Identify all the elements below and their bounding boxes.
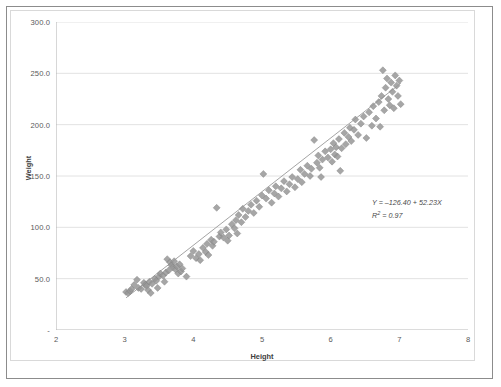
data-point (397, 101, 404, 108)
data-point (256, 203, 263, 210)
data-point (355, 131, 362, 138)
r-squared-number: = 0.97 (380, 211, 402, 220)
data-point (370, 103, 377, 110)
data-point (385, 96, 392, 103)
x-axis-title: Height (56, 352, 468, 361)
equation-variable: X (437, 198, 442, 207)
data-point (381, 107, 388, 114)
scatter-plot-canvas (56, 22, 468, 330)
data-point (372, 115, 379, 122)
regression-equation: Y = –126.40 + 52.23X (372, 197, 442, 208)
data-point (382, 84, 389, 91)
y-tick-label: 100.0 (30, 223, 50, 232)
gridlines (56, 22, 468, 279)
data-point (375, 99, 382, 106)
data-point (363, 135, 370, 142)
data-points (123, 67, 405, 297)
x-tick-label: 2 (54, 335, 58, 344)
x-tick-label: 5 (260, 335, 264, 344)
x-tick-label: 4 (191, 335, 195, 344)
equation-text: Y = –126.40 + 52.23 (372, 198, 437, 207)
data-point (337, 167, 344, 174)
y-tick-label: 150.0 (30, 172, 50, 181)
chart-screenshot: Weight Height -50.0100.0150.0200.0250.03… (0, 0, 501, 387)
regression-annotation: Y = –126.40 + 52.23X R2 = 0.97 (372, 197, 442, 221)
data-point (389, 88, 396, 95)
x-tick-label: 7 (397, 335, 401, 344)
x-tick-label: 8 (466, 335, 470, 344)
data-point (154, 284, 161, 291)
data-point (368, 122, 375, 129)
data-point (242, 214, 249, 221)
y-tick-label: 300.0 (30, 18, 50, 27)
x-tick-label: 3 (123, 335, 127, 344)
data-point (357, 120, 364, 127)
data-point (161, 278, 168, 285)
data-point (318, 174, 325, 181)
trend-line (126, 83, 401, 297)
y-tick-label: 200.0 (30, 120, 50, 129)
data-point (378, 92, 385, 99)
data-point (311, 137, 318, 144)
y-tick-label: 250.0 (30, 69, 50, 78)
data-point (335, 136, 342, 143)
plot-area: -50.0100.0150.0200.0250.0300.0 2345678 (56, 22, 468, 330)
x-tick-label: 6 (329, 335, 333, 344)
data-point (268, 199, 275, 206)
data-point (379, 67, 386, 74)
r-squared-value: R2 = 0.97 (372, 208, 442, 221)
y-tick-label: 50.0 (35, 274, 50, 283)
y-tick-label: - (47, 326, 50, 335)
data-point (394, 92, 401, 99)
data-point (213, 204, 220, 211)
